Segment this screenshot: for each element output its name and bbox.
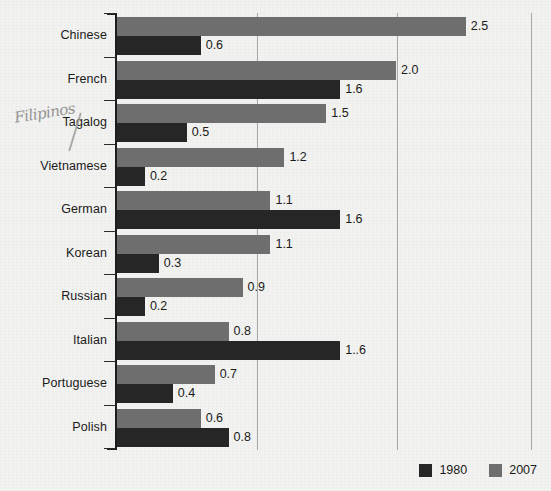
bar-2007-russian[interactable] xyxy=(117,278,243,297)
bar-value-1980-german: 1.6 xyxy=(345,210,362,229)
bar-2007-chinese[interactable] xyxy=(117,17,466,36)
y-axis-tick xyxy=(104,144,116,145)
chart-row: Vietnamese1.20.2 xyxy=(0,144,551,188)
y-axis-tick xyxy=(104,448,116,449)
y-axis-tick xyxy=(104,318,116,319)
category-label-russian: Russian xyxy=(0,289,107,303)
category-label-chinese: Chinese xyxy=(0,28,107,42)
bar-value-1980-korean: 0.3 xyxy=(164,254,181,273)
bar-value-1980-polish: 0.8 xyxy=(234,428,251,447)
bar-value-2007-italian: 0.8 xyxy=(234,322,251,341)
bar-value-1980-tagalog: 0.5 xyxy=(192,123,209,142)
bar-1980-polish[interactable] xyxy=(117,428,229,447)
bar-value-2007-korean: 1.1 xyxy=(275,235,292,254)
bar-2007-vietnamese[interactable] xyxy=(117,148,284,167)
bar-chart: Chinese2.50.6French2.01.6Tagalog1.50.5Vi… xyxy=(0,0,551,491)
bar-1980-tagalog[interactable] xyxy=(117,123,187,142)
legend-item-2007[interactable]: 2007 xyxy=(489,463,537,477)
chart-row: Italian0.81..6 xyxy=(0,318,551,362)
y-axis-tick xyxy=(104,57,116,58)
y-axis-tick xyxy=(104,187,116,188)
bar-2007-tagalog[interactable] xyxy=(117,104,326,123)
bar-2007-korean[interactable] xyxy=(117,235,270,254)
bar-value-1980-vietnamese: 0.2 xyxy=(150,167,167,186)
bar-value-2007-vietnamese: 1.2 xyxy=(289,148,306,167)
bar-value-2007-tagalog: 1.5 xyxy=(331,104,348,123)
bar-1980-chinese[interactable] xyxy=(117,36,201,55)
category-label-portuguese: Portuguese xyxy=(0,376,107,390)
category-label-italian: Italian xyxy=(0,333,107,347)
chart-row: Polish0.60.8 xyxy=(0,405,551,449)
y-axis-line xyxy=(115,13,117,450)
y-axis-tick xyxy=(104,100,116,101)
bar-value-2007-portuguese: 0.7 xyxy=(220,365,237,384)
category-label-german: German xyxy=(0,202,107,216)
bar-value-1980-portuguese: 0.4 xyxy=(178,384,195,403)
y-axis-tick xyxy=(104,231,116,232)
bar-1980-russian[interactable] xyxy=(117,297,145,316)
bar-2007-italian[interactable] xyxy=(117,322,229,341)
y-axis-tick xyxy=(104,405,116,406)
legend-item-1980[interactable]: 1980 xyxy=(419,463,467,477)
chart-legend: 1980 2007 xyxy=(419,463,537,477)
y-axis-tick xyxy=(104,274,116,275)
bar-2007-portuguese[interactable] xyxy=(117,365,215,384)
chart-row: Chinese2.50.6 xyxy=(0,13,551,57)
bar-value-1980-italian: 1..6 xyxy=(345,341,366,360)
bar-2007-german[interactable] xyxy=(117,191,270,210)
bar-1980-korean[interactable] xyxy=(117,254,159,273)
y-axis-tick xyxy=(104,13,116,14)
category-label-vietnamese: Vietnamese xyxy=(0,159,107,173)
category-label-french: French xyxy=(0,72,107,86)
bar-1980-german[interactable] xyxy=(117,210,340,229)
chart-row: Korean1.10.3 xyxy=(0,231,551,275)
legend-swatch-1980 xyxy=(419,464,432,477)
chart-row: German1.11.6 xyxy=(0,187,551,231)
bar-2007-polish[interactable] xyxy=(117,409,201,428)
bar-value-1980-chinese: 0.6 xyxy=(206,36,223,55)
legend-label-1980: 1980 xyxy=(439,463,467,477)
chart-row: Russian0.90.2 xyxy=(0,274,551,318)
chart-row: French2.01.6 xyxy=(0,57,551,101)
bar-1980-vietnamese[interactable] xyxy=(117,167,145,186)
y-axis-tick xyxy=(104,361,116,362)
bar-value-2007-german: 1.1 xyxy=(275,191,292,210)
chart-row: Tagalog1.50.5 xyxy=(0,100,551,144)
bar-value-1980-french: 1.6 xyxy=(345,80,362,99)
chart-row: Portuguese0.70.4 xyxy=(0,361,551,405)
bar-value-2007-chinese: 2.5 xyxy=(471,17,488,36)
bar-1980-italian[interactable] xyxy=(117,341,340,360)
bar-value-1980-russian: 0.2 xyxy=(150,297,167,316)
category-label-polish: Polish xyxy=(0,420,107,434)
bar-1980-portuguese[interactable] xyxy=(117,384,173,403)
bar-value-2007-french: 2.0 xyxy=(401,61,418,80)
legend-swatch-2007 xyxy=(489,464,502,477)
category-label-korean: Korean xyxy=(0,246,107,260)
bar-1980-french[interactable] xyxy=(117,80,340,99)
legend-label-2007: 2007 xyxy=(509,463,537,477)
bar-2007-french[interactable] xyxy=(117,61,396,80)
bar-value-2007-russian: 0.9 xyxy=(248,278,265,297)
bar-value-2007-polish: 0.6 xyxy=(206,409,223,428)
